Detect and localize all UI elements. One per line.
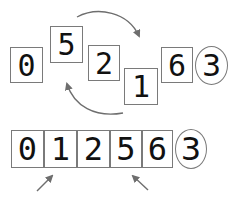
- top-cell: 2: [88, 45, 120, 81]
- pointer-arrow-left-icon: [37, 176, 52, 191]
- top-cell: 0: [10, 47, 43, 83]
- swap-arrow-bottom-icon: [67, 84, 123, 114]
- pointer-arrow-right-icon: [133, 176, 148, 190]
- cell-value: 0: [18, 130, 37, 168]
- arrows-layer: [0, 0, 230, 198]
- pending-value: 3: [181, 130, 201, 168]
- cell-value: 2: [95, 46, 113, 81]
- bottom-cell: 2: [77, 130, 110, 168]
- top-cell: 5: [50, 26, 83, 63]
- swap-arrow-top-icon: [77, 12, 139, 36]
- cell-value: 2: [84, 130, 103, 168]
- cell-value: 0: [17, 48, 35, 83]
- pending-value: 3: [202, 48, 221, 83]
- top-cell: 6: [161, 47, 193, 83]
- cell-value: 1: [51, 130, 70, 168]
- bottom-cell: 6: [142, 130, 173, 168]
- top-pending-element: 3: [195, 46, 228, 85]
- cell-value: 1: [132, 69, 150, 104]
- cell-value: 6: [168, 48, 186, 83]
- bottom-cell: 5: [110, 130, 142, 168]
- bottom-pending-element: 3: [175, 129, 207, 169]
- bottom-cell: 1: [44, 130, 77, 168]
- cell-value: 5: [57, 27, 75, 62]
- bottom-cell: 0: [11, 130, 44, 168]
- cell-value: 6: [148, 130, 167, 168]
- cell-value: 5: [116, 130, 135, 168]
- top-cell: 1: [124, 68, 158, 105]
